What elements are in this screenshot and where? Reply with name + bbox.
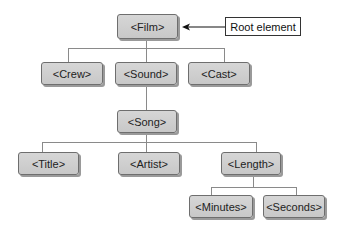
node-label: <Sound> — [124, 68, 169, 80]
node-film: <Film> — [117, 14, 178, 39]
connector — [42, 142, 257, 143]
connector — [296, 187, 297, 195]
node-cast: <Cast> — [188, 62, 250, 85]
node-label: <Artist> — [130, 158, 168, 170]
node-song: <Song> — [117, 110, 177, 133]
node-length: <Length> — [221, 152, 281, 175]
node-minutes: <Minutes> — [189, 195, 253, 218]
connector — [211, 187, 297, 188]
node-label: <Seconds> — [266, 201, 322, 213]
connector — [211, 187, 212, 195]
node-label: <Minutes> — [195, 201, 246, 213]
node-label: <Song> — [128, 116, 167, 128]
node-artist: <Artist> — [118, 152, 180, 175]
arrow-left-icon — [182, 22, 225, 32]
node-label: <Crew> — [53, 68, 92, 80]
node-label: <Cast> — [201, 68, 236, 80]
node-label: <Title> — [32, 158, 65, 170]
connector — [42, 142, 43, 152]
connector — [146, 39, 147, 48]
connector — [256, 142, 257, 152]
connector — [146, 133, 147, 142]
connector — [146, 85, 147, 110]
connector — [146, 48, 147, 62]
connector — [253, 175, 254, 187]
connector — [146, 142, 147, 152]
node-title: <Title> — [18, 152, 79, 175]
node-label: <Film> — [131, 21, 165, 33]
connector — [224, 48, 225, 62]
connector — [68, 48, 69, 62]
node-sound: <Sound> — [115, 62, 177, 85]
node-crew: <Crew> — [41, 62, 103, 85]
node-label: <Length> — [228, 158, 275, 170]
root-element-callout: Root element — [225, 17, 301, 36]
node-seconds: <Seconds> — [263, 195, 325, 218]
callout-text: Root element — [230, 21, 295, 33]
